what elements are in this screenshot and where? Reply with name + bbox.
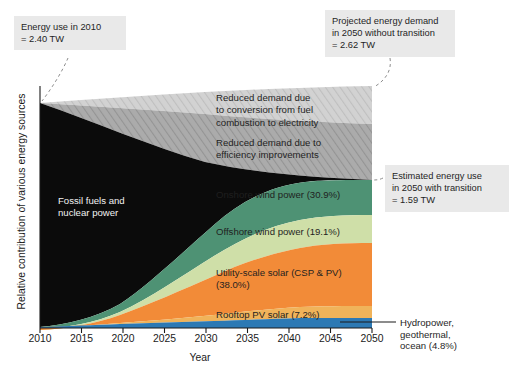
x-tick-2025: 2025 — [145, 333, 185, 344]
y-axis-title: Relative contribution of various energy … — [16, 77, 27, 327]
energy-transition-area-chart: Energy use in 2010 = 2.40 TW Projected e… — [0, 0, 516, 378]
x-tick-2020: 2020 — [103, 333, 143, 344]
x-tick-2035: 2035 — [228, 333, 268, 344]
leader-line-2050-no-transition — [374, 58, 390, 87]
leader-line-2050-with-transition — [373, 178, 383, 180]
x-tick-2030: 2030 — [186, 333, 226, 344]
x-tick-2045: 2045 — [311, 333, 351, 344]
x-axis-title: Year — [0, 352, 400, 363]
label-conversion-band: Reduced demand due to conversion from fu… — [216, 92, 384, 129]
x-tick-2015: 2015 — [62, 333, 102, 344]
label-hydro-band: Hydropower, geothermal, ocean (4.8%) — [400, 317, 512, 352]
callout-estimated-use-2050: Estimated energy use in 2050 with transi… — [385, 165, 509, 212]
x-tick-2010: 2010 — [20, 333, 60, 344]
label-utility-solar-band: Utility-scale solar (CSP & PV) (38.0%) — [216, 267, 384, 292]
label-onshore-wind-band: Onshore wind power (30.9%) — [216, 189, 392, 201]
label-rooftop-solar-band: Rooftop PV solar (7.2%) — [216, 309, 392, 321]
label-fossil-nuclear-band: Fossil fuels and nuclear power — [58, 195, 178, 220]
callout-projected-demand-2050: Projected energy demand in 2050 without … — [325, 10, 455, 57]
callout-energy-use-2010: Energy use in 2010 = 2.40 TW — [14, 16, 126, 50]
label-offshore-wind-band: Offshore wind power (19.1%) — [216, 226, 392, 238]
x-tick-2040: 2040 — [269, 333, 309, 344]
x-tick-2050: 2050 — [352, 333, 392, 344]
label-efficiency-band: Reduced demand due to efficiency improve… — [216, 137, 384, 162]
